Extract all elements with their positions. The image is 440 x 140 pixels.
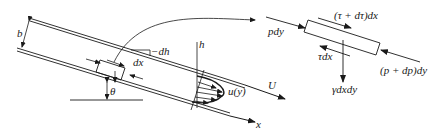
height-drop-label: −dh bbox=[151, 45, 170, 57]
inclined-channel-diagram: b −dh dx θ h u(y) U x bbox=[0, 0, 440, 140]
top-shear-label: (τ + dτ)dx bbox=[334, 9, 378, 22]
velocity-profile-label: u(y) bbox=[228, 85, 246, 98]
incline-angle-label: θ bbox=[110, 85, 116, 97]
left-pressure-label: pdy bbox=[267, 25, 284, 37]
width-dimension-arrow bbox=[22, 21, 29, 47]
x-axis-arrow bbox=[230, 116, 255, 122]
right-pressure-label: (p + dp)dy bbox=[380, 64, 427, 77]
x-axis-label: x bbox=[255, 118, 261, 130]
weight-label: γdxdy bbox=[332, 83, 357, 95]
height-axis-label: h bbox=[199, 38, 205, 50]
free-stream-velocity-label: U bbox=[268, 79, 277, 91]
element-length-label: dx bbox=[133, 56, 144, 68]
bottom-shear-label: τdx bbox=[318, 50, 332, 62]
channel-width-label: b bbox=[17, 27, 23, 39]
free-stream-arrow bbox=[245, 85, 285, 99]
